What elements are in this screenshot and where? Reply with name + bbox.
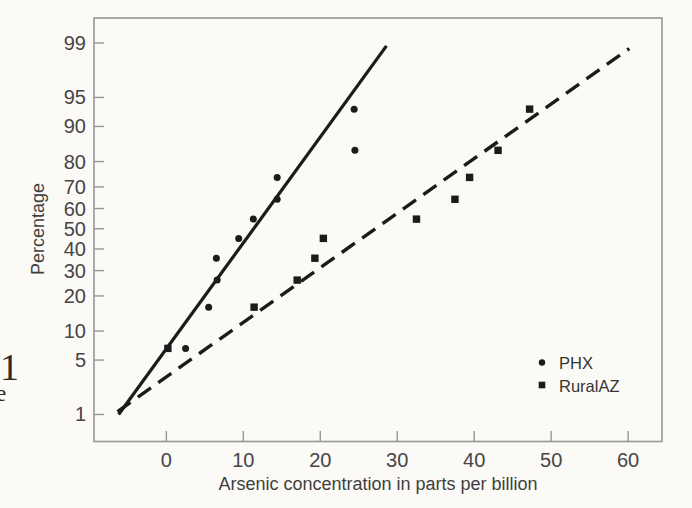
ruralaz-point [250,303,257,310]
phx-point [351,147,358,154]
y-tick-label: 60 [64,198,86,220]
y-tick-label: 99 [64,32,86,54]
legend-label-ruralaz: RuralAZ [559,377,620,395]
legend-ruralaz-square-icon [539,382,546,389]
ruralaz-point [451,196,458,203]
normal-probability-plot: 0102030405060151020304050607080909599 Pe… [0,0,692,508]
phx-fit-line [119,46,387,415]
y-tick-label: 40 [64,238,86,260]
phx-point [250,216,257,223]
legend-label-phx: PHX [559,354,593,372]
ruralaz-point [526,105,533,112]
ruralaz-point [164,345,171,352]
axis-ticks-group: 0102030405060151020304050607080909599 [64,32,640,471]
y-tick-label: 20 [64,285,86,307]
ruralaz-point [466,174,473,181]
ruralaz-point [311,255,318,262]
legend: PHX RuralAZ [539,354,620,395]
phx-point [235,235,242,242]
y-tick-label: 10 [64,320,86,342]
x-tick-label: 40 [463,449,485,471]
phx-point [351,106,358,113]
y-tick-label: 50 [64,218,86,240]
phx-point [274,174,281,181]
phx-point [205,304,212,311]
ruralaz-point [413,215,420,222]
x-tick-label: 50 [540,449,562,471]
fit-lines-group [117,46,629,415]
y-tick-label: 1 [75,403,86,425]
data-points-group [164,105,533,352]
x-tick-label: 20 [309,449,331,471]
legend-phx-circle-icon [539,359,545,365]
ruralaz-point [494,147,501,154]
page-text-fragment: e [0,381,6,406]
phx-point [213,255,220,262]
x-tick-label: 10 [232,449,254,471]
ruralaz-point [293,276,300,283]
phx-point [182,345,189,352]
phx-point [274,196,281,203]
x-tick-label: 30 [386,449,408,471]
y-tick-label: 90 [64,115,86,137]
x-tick-label: 60 [617,449,639,471]
y-tick-label: 70 [64,176,86,198]
y-tick-label: 80 [64,151,86,173]
scanned-book-page: 0102030405060151020304050607080909599 Pe… [0,0,692,508]
ruralaz-fit-line [117,49,629,412]
y-axis-label: Percentage [28,183,48,275]
phx-point [214,277,221,284]
y-tick-label: 30 [64,260,86,282]
y-tick-label: 95 [64,86,86,108]
ruralaz-point [320,235,327,242]
y-tick-label: 5 [75,349,86,371]
x-axis-label: Arsenic concentration in parts per billi… [218,474,537,494]
x-tick-label: 0 [161,449,172,471]
